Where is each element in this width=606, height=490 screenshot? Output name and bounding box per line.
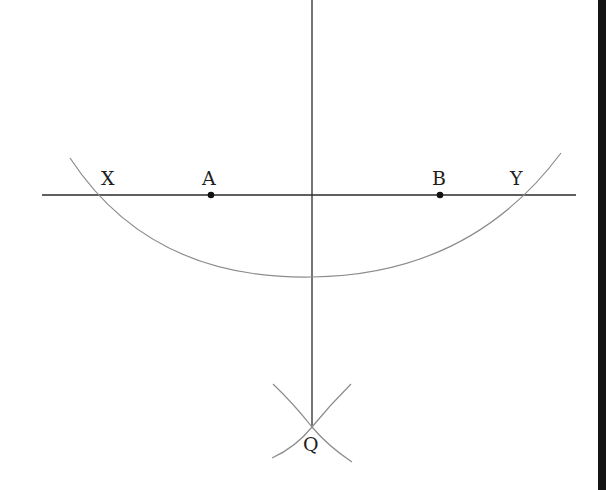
label-b: B <box>432 167 446 189</box>
point-b-dot <box>437 192 444 199</box>
label-x: X <box>101 167 115 189</box>
label-q: Q <box>303 433 319 455</box>
construction-diagram: X A B Y Q <box>0 0 606 490</box>
label-y: Y <box>509 167 523 189</box>
page-edge-shadow <box>598 0 606 490</box>
arc-through-x-and-y <box>70 153 561 277</box>
label-a: A <box>201 167 216 189</box>
point-a-dot <box>208 192 215 199</box>
